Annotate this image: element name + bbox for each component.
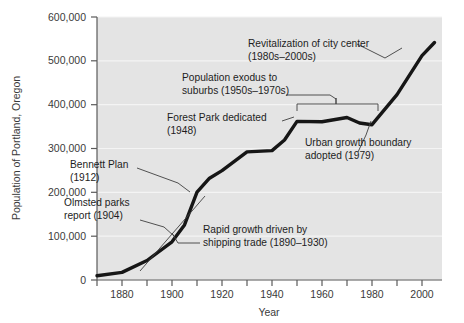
revitalization-line-1: Revitalization of city center <box>248 38 370 49</box>
y-tick-label-500000: 500,000 <box>48 54 86 66</box>
x-axis-ticks <box>97 280 422 286</box>
y-axis-title: Population of Portland, Oregon <box>10 76 22 220</box>
x-tick-label-1960: 1960 <box>310 288 334 300</box>
rapid-growth-line-1: Rapid growth driven by <box>203 224 308 235</box>
x-tick-label-1920: 1920 <box>210 288 234 300</box>
x-tick-label-1940: 1940 <box>260 288 284 300</box>
y-tick-label-0: 0 <box>80 274 86 286</box>
chart-canvas: 0 100,000 200,000 300,000 400,000 500,00… <box>0 0 464 323</box>
bennett-plan-line-2: (1912) <box>70 172 99 183</box>
exodus-line-2: suburbs (1950s–1970s) <box>182 85 289 96</box>
revitalization-line-2: (1980s–2000s) <box>248 51 316 62</box>
x-tick-label-1900: 1900 <box>160 288 184 300</box>
exodus-line-1: Population exodus to <box>182 72 277 83</box>
y-tick-label-200000: 200,000 <box>48 186 86 198</box>
olmsted-line-1: Olmsted parks <box>64 197 130 208</box>
y-tick-label-400000: 400,000 <box>48 98 86 110</box>
y-tick-label-600000: 600,000 <box>48 11 86 23</box>
y-tick-label-300000: 300,000 <box>48 142 86 154</box>
x-axis-title: Year <box>258 306 280 318</box>
y-tick-label-100000: 100,000 <box>48 230 86 242</box>
ugb-line-2: adopted (1979) <box>305 150 374 161</box>
forest-park-line-2: (1948) <box>167 125 196 136</box>
rapid-growth-line-2: shipping trade (1890–1930) <box>203 237 328 248</box>
x-tick-label-2000: 2000 <box>410 288 434 300</box>
population-chart-figure: 0 100,000 200,000 300,000 400,000 500,00… <box>0 0 464 323</box>
forest-park-line-1: Forest Park dedicated <box>167 112 267 123</box>
y-axis-ticks <box>91 17 97 280</box>
x-tick-label-1980: 1980 <box>360 288 384 300</box>
x-tick-label-1880: 1880 <box>110 288 134 300</box>
ugb-line-1: Urban growth boundary <box>305 137 412 148</box>
olmsted-line-2: report (1904) <box>64 210 123 221</box>
bennett-plan-line-1: Bennett Plan <box>70 159 128 170</box>
